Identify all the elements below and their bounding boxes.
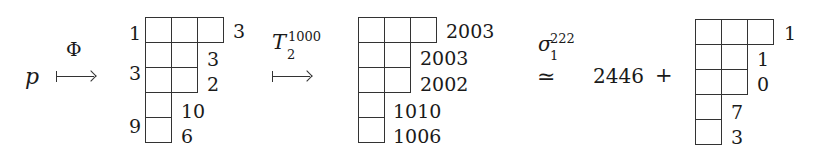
tableau-cell (197, 17, 224, 43)
tableau-2-right-label: 2003 (420, 49, 468, 68)
tableau-1-right-label: 2 (207, 75, 219, 94)
tableau-cell (145, 117, 172, 143)
tableau-1-right-label: 6 (181, 127, 193, 146)
tableau-3-right-label: 7 (731, 103, 743, 122)
tableau-cell (358, 117, 385, 143)
constant-term: 2446 (593, 66, 644, 86)
tableau-cell (171, 17, 198, 43)
plus-sign: + (655, 65, 673, 86)
tableau-3-right-label: 3 (731, 128, 743, 147)
maps-to-arrow-2 (272, 76, 310, 77)
tableau-1-right-label: 10 (181, 102, 205, 121)
tableau-1-right-label: 3 (207, 50, 219, 69)
relation-sigma-superscript: 222 (550, 31, 575, 46)
tableau-cell (358, 17, 385, 43)
tableau-cell (358, 92, 385, 118)
tableau-cell (747, 19, 774, 45)
tableau-cell (695, 69, 722, 95)
tableau-cell (384, 67, 411, 93)
tableau-cell (358, 67, 385, 93)
tableau-cell (721, 69, 748, 95)
map-t-subscript: 2 (287, 47, 295, 62)
tableau-cell (695, 19, 722, 45)
tableau-cell (145, 92, 172, 118)
tableau-cell (384, 42, 411, 68)
map-phi-label: Φ (66, 40, 82, 59)
tableau-cell (145, 42, 172, 68)
relation-sigma-subscript: 1 (550, 48, 558, 63)
tableau-2-right-label: 1010 (393, 102, 441, 121)
tableau-3-right-label: 1 (784, 24, 796, 43)
start-symbol-p: p (25, 66, 39, 88)
tableau-2-right-label: 2002 (420, 75, 468, 94)
tableau-cell (145, 67, 172, 93)
tableau-cell (410, 17, 437, 43)
tableau-cell (171, 67, 198, 93)
tableau-cell (384, 17, 411, 43)
tableau-cell (358, 42, 385, 68)
tableau-1-left-label: 3 (129, 64, 141, 83)
tableau-2-right-label: 1006 (393, 127, 441, 146)
tableau-1-left-label: 9 (129, 117, 141, 136)
tableau-2-right-label: 2003 (446, 22, 494, 41)
tableau-cell (171, 42, 198, 68)
relation-symbol: ≃ (537, 64, 555, 89)
tableau-1-left-label: 1 (129, 24, 141, 43)
tableau-cell (695, 119, 722, 145)
map-t-superscript: 1000 (288, 29, 321, 44)
tableau-3-right-label: 0 (757, 75, 769, 94)
maps-to-arrow-1 (56, 76, 94, 77)
map-t-label: T (272, 30, 286, 54)
tableau-1-right-label: 3 (233, 22, 245, 41)
tableau-3-right-label: 1 (757, 50, 769, 69)
tableau-cell (695, 44, 722, 70)
tableau-cell (721, 44, 748, 70)
tableau-cell (695, 94, 722, 120)
tableau-cell (145, 17, 172, 43)
tableau-cell (721, 19, 748, 45)
